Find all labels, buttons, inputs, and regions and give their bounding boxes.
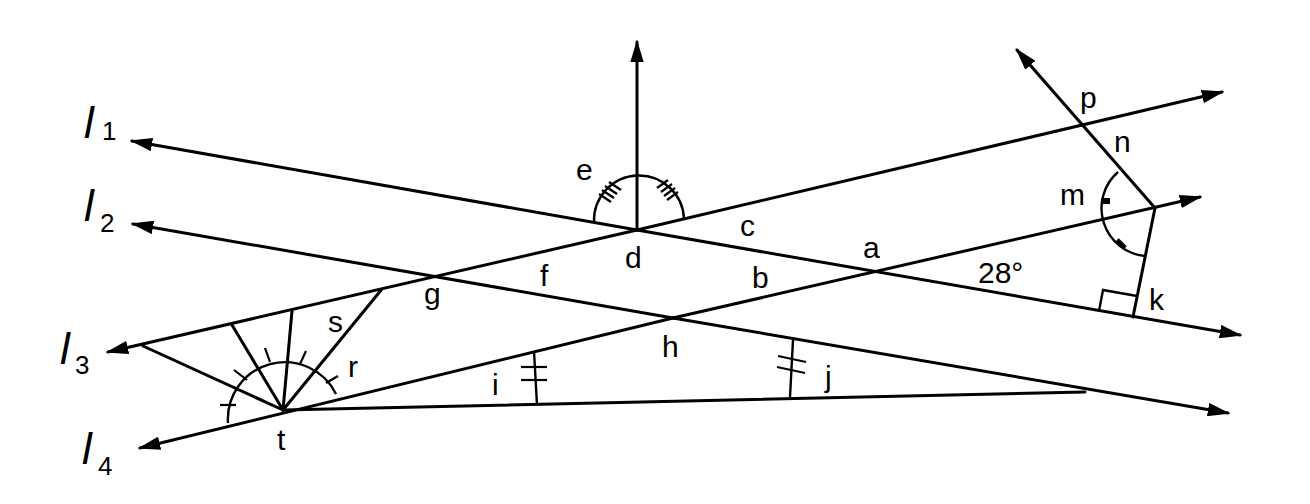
label-f: f bbox=[540, 259, 549, 292]
label-l3: l 3 bbox=[60, 324, 89, 380]
line-l1 bbox=[132, 141, 1240, 335]
label-k: k bbox=[1149, 283, 1165, 316]
geometry-diagram: l 1 l 2 l 3 l 4 e c d a f b g h i j s r … bbox=[0, 0, 1310, 504]
right-angle-marker bbox=[1099, 290, 1137, 311]
label-t: t bbox=[277, 423, 286, 456]
svg-text:3: 3 bbox=[75, 350, 89, 380]
svg-text:2: 2 bbox=[100, 208, 114, 238]
label-n: n bbox=[1114, 125, 1131, 158]
label-l4: l 4 bbox=[82, 424, 112, 481]
line-l2 bbox=[133, 224, 1228, 413]
svg-text:1: 1 bbox=[102, 116, 116, 146]
hash-i bbox=[521, 351, 547, 405]
label-p: p bbox=[1080, 81, 1097, 114]
svg-text:l: l bbox=[82, 424, 93, 473]
label-i: i bbox=[492, 368, 499, 401]
svg-text:l: l bbox=[84, 181, 95, 230]
fan-lines bbox=[143, 289, 382, 410]
label-b: b bbox=[752, 261, 769, 294]
label-g: g bbox=[424, 277, 441, 310]
label-h: h bbox=[662, 330, 679, 363]
label-c: c bbox=[740, 209, 755, 242]
hash-j bbox=[777, 340, 806, 397]
segment-base bbox=[283, 392, 1085, 410]
svg-text:l: l bbox=[84, 98, 95, 147]
label-l2: l 2 bbox=[84, 181, 114, 238]
label-l1: l 1 bbox=[84, 98, 116, 147]
svg-text:4: 4 bbox=[98, 451, 112, 481]
label-s: s bbox=[328, 305, 343, 338]
label-a: a bbox=[863, 231, 880, 264]
line-l3 bbox=[108, 92, 1222, 352]
label-j: j bbox=[824, 360, 832, 393]
label-m: m bbox=[1060, 178, 1085, 211]
arc-d-equal-angles bbox=[594, 175, 684, 222]
label-28-degrees: 28° bbox=[978, 256, 1023, 289]
arc-t-equal-angles bbox=[220, 348, 338, 423]
label-r: r bbox=[348, 350, 358, 383]
ray-pn bbox=[1017, 50, 1155, 208]
label-e: e bbox=[576, 153, 593, 186]
svg-text:l: l bbox=[60, 324, 71, 373]
label-d: d bbox=[625, 241, 642, 274]
